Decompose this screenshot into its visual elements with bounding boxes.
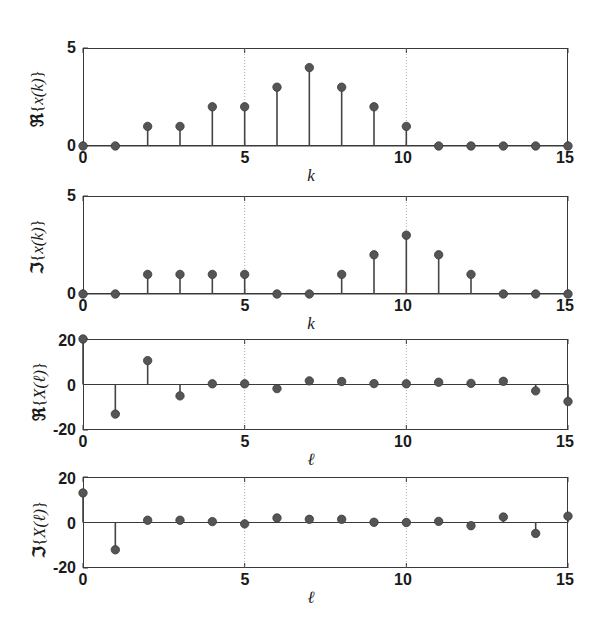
x-tick-label-3-2: 10 (389, 572, 417, 588)
figure-canvas: ℜ{x(k)} 5 0 0 5 10 15 k ℑ{x(k)} 5 0 0 5 … (0, 0, 614, 635)
plot-panel-3: ℑ{X(ℓ)} 20 0 -20 0 5 10 15 ℓ (0, 430, 614, 615)
x-axis-label-3: ℓ (291, 588, 331, 608)
x-tick-label-3-1: 5 (231, 572, 259, 588)
x-tick-label-3-0: 0 (69, 572, 97, 588)
x-tick-label-3-3: 15 (551, 572, 579, 588)
